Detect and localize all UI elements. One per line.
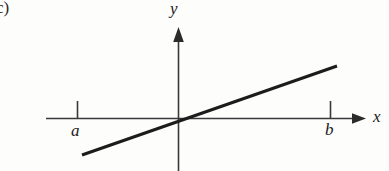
coordinate-plane-graphic	[0, 0, 389, 171]
y-axis-arrow-icon	[173, 27, 184, 42]
x-axis-arrow-icon	[352, 113, 366, 124]
x-axis-label: x	[373, 108, 381, 125]
figure-container: c) y x a b	[0, 0, 389, 171]
plotted-line-segment	[82, 66, 337, 155]
tick-label-a: a	[71, 122, 80, 139]
y-axis-label: y	[170, 0, 178, 17]
tick-label-b: b	[325, 121, 334, 138]
